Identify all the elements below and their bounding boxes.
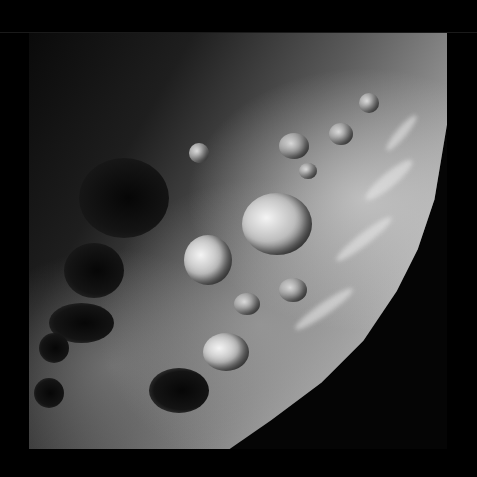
small-crater-4 xyxy=(299,163,317,179)
small-crater-5 xyxy=(234,293,260,315)
dark-crater-bottom xyxy=(149,368,209,413)
small-crater-6 xyxy=(279,278,307,302)
dark-crater-left xyxy=(64,243,124,298)
left-central-crater xyxy=(184,235,232,285)
dark-crater-upper-left xyxy=(79,158,169,238)
small-crater-1 xyxy=(279,133,309,159)
dark-crater-lower-left-3 xyxy=(34,378,64,408)
moon-photo xyxy=(29,33,447,449)
small-crater-3 xyxy=(359,93,379,113)
dark-crater-lower-left-2 xyxy=(39,333,69,363)
lower-crater xyxy=(203,333,249,371)
small-crater-7 xyxy=(189,143,209,163)
large-central-crater xyxy=(242,193,312,255)
small-crater-2 xyxy=(329,123,353,145)
moon-surface xyxy=(29,33,447,449)
